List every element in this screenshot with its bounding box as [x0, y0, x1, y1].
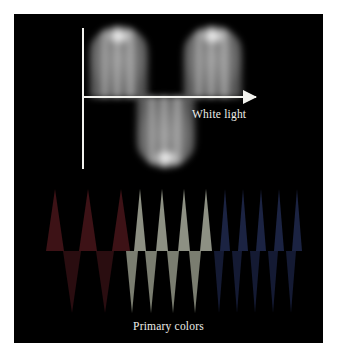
primary-colors-panel: Primary colors: [14, 189, 323, 343]
spike-red-down-2: [96, 251, 114, 313]
spike-blue-up-5: [292, 189, 302, 251]
spike-green-down-3: [167, 251, 179, 313]
spike-green-down-4: [189, 251, 201, 313]
spike-blue-down-5: [286, 251, 296, 313]
spike-blue-up-3: [256, 189, 266, 251]
spike-blue-up-2: [238, 189, 248, 251]
spike-blue-up-4: [274, 189, 284, 251]
white-light-crest-2: [182, 26, 244, 98]
color-group-red: [32, 189, 124, 319]
spike-red-up-2: [79, 189, 97, 251]
lobe-gradient: [88, 26, 150, 98]
white-light-label: White light: [192, 108, 246, 120]
primary-colors-label: Primary colors: [14, 320, 323, 332]
spike-blue-down-2: [232, 251, 242, 313]
spike-green-down-2: [145, 251, 157, 313]
figure-plate: White light Primary colors: [14, 14, 323, 343]
white-light-panel: White light: [14, 14, 323, 189]
spike-blue-down-4: [268, 251, 278, 313]
spike-blue-down-1: [214, 251, 224, 313]
horizontal-axis: [82, 96, 256, 98]
vertical-axis: [82, 28, 84, 169]
spike-green-up-4: [200, 189, 212, 251]
white-light-trough-1: [135, 96, 197, 168]
spike-green-down-1: [126, 251, 138, 313]
spike-red-up-1: [46, 189, 64, 251]
white-light-crest-1: [88, 26, 150, 98]
color-group-blue: [214, 189, 310, 319]
spike-green-up-3: [178, 189, 190, 251]
axis-arrowhead-icon: [243, 90, 257, 104]
spike-blue-up-1: [220, 189, 230, 251]
spike-green-up-1: [134, 189, 146, 251]
spike-red-down-1: [63, 251, 81, 313]
spike-blue-down-3: [250, 251, 260, 313]
lobe-gradient: [135, 96, 197, 168]
lobe-gradient: [182, 26, 244, 98]
spike-green-up-2: [156, 189, 168, 251]
figure-root: White light Primary colors: [0, 0, 337, 359]
color-group-green: [126, 189, 214, 319]
